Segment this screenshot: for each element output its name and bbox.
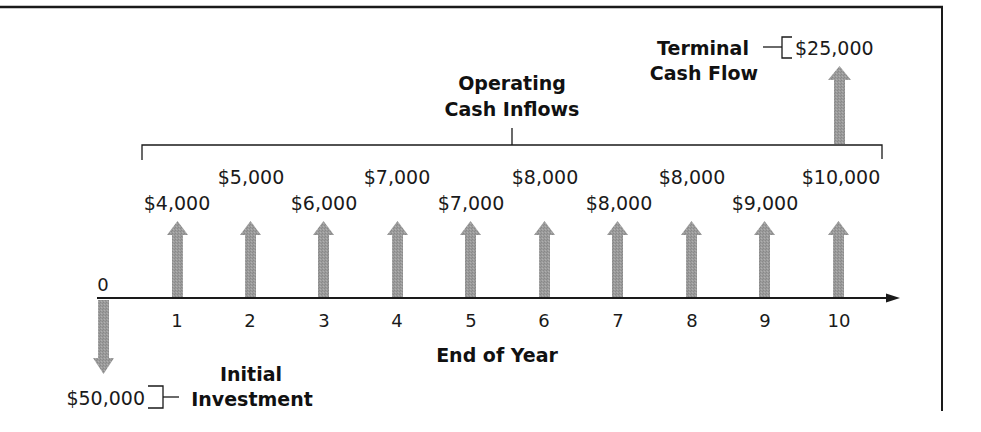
initial-line2: Investment	[191, 388, 313, 410]
up-arrow-icon-year-9	[754, 221, 775, 298]
terminal-arrow-icon	[828, 66, 851, 144]
inflow-amount-labels: $4,000 $5,000 $6,000 $7,000 $7,000 $8,00…	[144, 166, 881, 214]
inflow-label-year-7: $8,000	[586, 192, 652, 214]
year-label-2: 2	[244, 310, 255, 331]
axis-title: End of Year	[436, 344, 558, 366]
year-label-6: 6	[538, 310, 549, 331]
terminal-line2: Cash Flow	[650, 62, 758, 84]
inflow-arrows	[167, 221, 849, 298]
up-arrow-icon-year-4	[387, 221, 408, 298]
year-label-7: 7	[612, 310, 623, 331]
year-label-5: 5	[465, 310, 476, 331]
inflow-label-year-9: $9,000	[732, 192, 798, 214]
inflow-label-year-3: $6,000	[291, 192, 357, 214]
inflow-label-year-10: $10,000	[802, 166, 881, 188]
operating-inflows-caption: Operating Cash Inflows	[445, 72, 580, 120]
operating-line2: Cash Inflows	[445, 98, 580, 120]
operating-bracket	[142, 128, 882, 160]
inflow-label-year-4: $7,000	[364, 166, 430, 188]
initial-bracket	[148, 386, 179, 408]
year-label-4: 4	[391, 310, 402, 331]
cash-flow-timeline: Terminal Cash Flow $25,000 Operating Cas…	[0, 0, 981, 432]
up-arrow-icon-year-10	[828, 221, 849, 298]
year-0-label: 0	[97, 274, 108, 295]
year-label-3: 3	[318, 310, 329, 331]
year-label-9: 9	[759, 310, 770, 331]
terminal-amount: $25,000	[795, 37, 874, 59]
inflow-label-year-5: $7,000	[438, 192, 504, 214]
axis-arrow-icon	[886, 294, 900, 303]
inflow-label-year-6: $8,000	[512, 166, 578, 188]
inflow-label-year-8: $8,000	[659, 166, 725, 188]
terminal-cash-flow-caption: Terminal Cash Flow	[650, 37, 758, 84]
up-arrow-icon-year-7	[607, 221, 628, 298]
up-arrow-icon-year-6	[534, 221, 555, 298]
year-label-1: 1	[171, 310, 182, 331]
terminal-line1: Terminal	[657, 37, 749, 59]
year-labels: 1 2 3 4 5 6 7 8 9 10	[171, 310, 850, 331]
initial-line1: Initial	[220, 363, 282, 385]
down-arrow-icon-initial-investment	[93, 300, 114, 374]
year-label-10: 10	[828, 310, 851, 331]
time-axis	[97, 294, 900, 303]
up-arrow-icon-year-8	[681, 221, 702, 298]
initial-amount: $50,000	[66, 387, 145, 409]
inflow-label-year-2: $5,000	[218, 166, 284, 188]
up-arrow-icon-year-2	[240, 221, 261, 298]
inflow-label-year-1: $4,000	[144, 192, 210, 214]
terminal-bracket	[763, 37, 792, 58]
up-arrow-icon-year-3	[313, 221, 334, 298]
year-label-8: 8	[686, 310, 697, 331]
operating-line1: Operating	[458, 72, 566, 94]
up-arrow-icon-year-1	[167, 221, 188, 298]
up-arrow-icon-year-5	[460, 221, 481, 298]
initial-investment-caption: Initial Investment	[191, 363, 313, 410]
